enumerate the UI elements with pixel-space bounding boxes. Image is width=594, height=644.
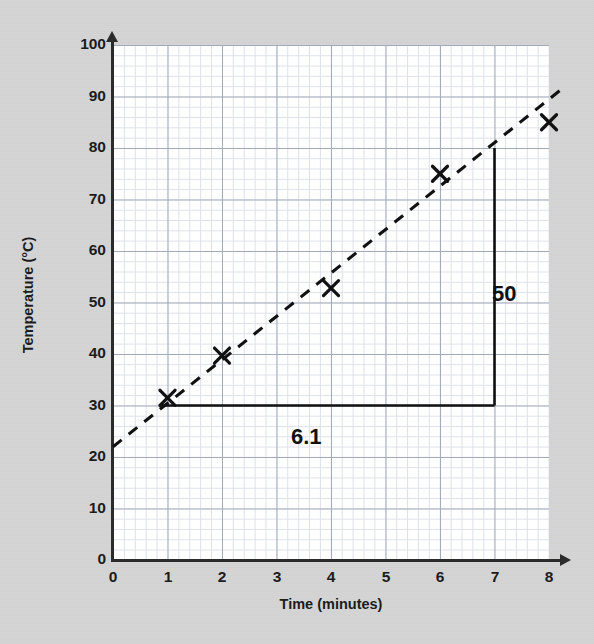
x-axis-title: Time (minutes) bbox=[113, 596, 549, 612]
x-tick-7: 7 bbox=[491, 568, 500, 586]
x-axis-tick-labels: 0 1 2 3 4 5 6 7 8 bbox=[0, 0, 594, 644]
temperature-vs-time-chart: 100 90 80 70 60 50 40 30 20 10 0 0 1 2 3… bbox=[0, 0, 594, 644]
x-tick-6: 6 bbox=[436, 568, 445, 586]
x-tick-8: 8 bbox=[545, 568, 554, 586]
x-tick-2: 2 bbox=[218, 568, 227, 586]
x-tick-4: 4 bbox=[327, 568, 336, 586]
rise-label: 50 bbox=[492, 281, 516, 307]
x-tick-3: 3 bbox=[273, 568, 282, 586]
run-label: 6.1 bbox=[291, 424, 322, 450]
x-tick-0: 0 bbox=[109, 568, 118, 586]
x-tick-1: 1 bbox=[164, 568, 173, 586]
x-tick-5: 5 bbox=[382, 568, 391, 586]
y-axis-title: Temperature (°C) bbox=[20, 205, 36, 385]
